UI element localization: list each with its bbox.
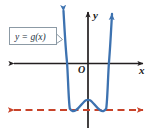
x-axis-label: x xyxy=(138,64,145,76)
graph-canvas: y x O y = g(x) xyxy=(0,0,157,134)
origin-label: O xyxy=(78,64,85,75)
function-label-text: y = g(x) xyxy=(14,32,46,43)
graph-figure: y x O y = g(x) xyxy=(0,0,157,134)
y-axis-label: y xyxy=(91,9,98,21)
